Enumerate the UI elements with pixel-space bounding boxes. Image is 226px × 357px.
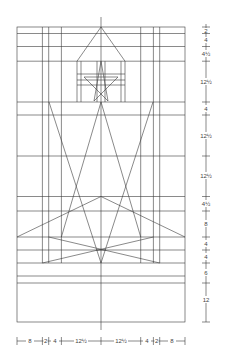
construction-drawing: 2 4 4½ 12½ 4 12½ 12½ 4½ 8 4 4 6 12	[0, 0, 226, 357]
svg-text:12½: 12½	[200, 79, 212, 85]
svg-text:12: 12	[203, 297, 210, 303]
svg-text:12½: 12½	[200, 173, 212, 179]
svg-text:4½: 4½	[202, 51, 210, 57]
svg-text:4½: 4½	[202, 201, 210, 207]
svg-text:12½: 12½	[200, 133, 212, 139]
svg-text:12½: 12½	[75, 338, 87, 344]
horizontal-scale	[17, 337, 185, 345]
svg-text:12½: 12½	[115, 338, 127, 344]
